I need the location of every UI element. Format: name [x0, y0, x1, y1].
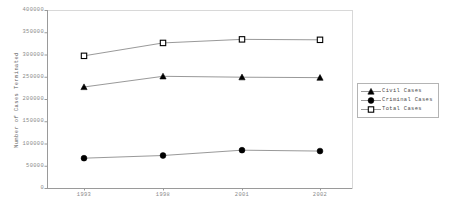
- chart-container: Number of Cases Terminated 0500001000001…: [0, 0, 450, 213]
- legend-label: Total Cases: [382, 105, 422, 114]
- legend-label: Civil Cases: [382, 87, 422, 96]
- series-total-cases: [81, 37, 322, 59]
- x-tick-label: 2001: [222, 192, 262, 198]
- series-line: [84, 150, 320, 158]
- legend-item-total-cases[interactable]: Total Cases: [360, 105, 436, 114]
- x-tick-label: 1993: [64, 192, 104, 198]
- legend-marker-circle-filled: [360, 96, 382, 105]
- marker-square: [239, 37, 244, 42]
- marker-circle: [239, 147, 245, 153]
- series-line: [84, 39, 320, 55]
- marker-square: [317, 37, 322, 42]
- marker-circle: [81, 155, 87, 161]
- x-tick-label: 2002: [300, 192, 340, 198]
- series-criminal-cases: [81, 147, 323, 161]
- marker-circle: [317, 148, 323, 154]
- x-axis-tick-labels: 1993199820012002: [0, 192, 450, 204]
- marker-circle: [160, 153, 166, 159]
- series-civil-cases: [81, 73, 323, 89]
- legend-label: Criminal Cases: [382, 96, 433, 105]
- x-tick-label: 1998: [143, 192, 183, 198]
- plot-frame: [48, 11, 353, 189]
- legend-item-civil-cases[interactable]: Civil Cases: [360, 87, 436, 96]
- chart-legend: Civil CasesCriminal CasesTotal Cases: [357, 83, 439, 118]
- marker-square: [81, 53, 86, 58]
- marker-square: [160, 40, 165, 45]
- legend-marker-triangle-filled: [360, 87, 382, 96]
- marker-circle: [368, 98, 374, 104]
- legend-marker-square-open: [360, 105, 382, 114]
- legend-item-criminal-cases[interactable]: Criminal Cases: [360, 96, 436, 105]
- series-line: [84, 76, 320, 87]
- marker-square: [368, 107, 373, 112]
